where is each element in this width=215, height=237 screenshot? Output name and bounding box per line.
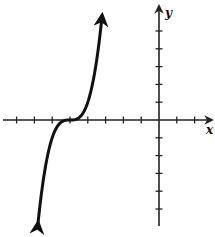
- cubic-function-graph: y x: [0, 0, 215, 237]
- y-axis-label: y: [164, 6, 173, 20]
- x-axis-label: x: [205, 123, 214, 137]
- axes: [3, 6, 212, 226]
